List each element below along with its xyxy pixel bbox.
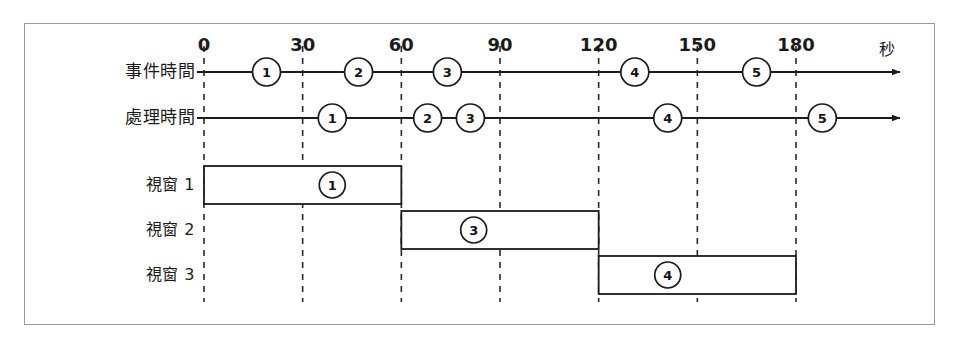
- window-bar-3: [599, 256, 796, 294]
- event-node-label-processing-time-5: 5: [807, 112, 837, 125]
- event-node-label-event-time-4: 4: [620, 66, 650, 79]
- window-event-node-label-1: 1: [317, 179, 347, 192]
- tick-label-180: 180: [766, 36, 826, 54]
- window-bar-2: [401, 211, 598, 249]
- unit-label: 秒: [872, 42, 902, 58]
- event-node-label-event-time-2: 2: [344, 66, 374, 79]
- tick-label-120: 120: [569, 36, 629, 54]
- event-node-label-event-time-5: 5: [742, 66, 772, 79]
- window-label-2: 視窗 2: [30, 222, 195, 238]
- tick-label-150: 150: [667, 36, 727, 54]
- window-bar-1: [204, 166, 401, 204]
- tick-label-60: 60: [371, 36, 431, 54]
- timeline-figure: 0306090120150180事件時間12345處理時間12345視窗 11視…: [0, 0, 961, 350]
- window-event-node-label-3: 4: [653, 269, 683, 282]
- event-node-label-processing-time-4: 4: [653, 112, 683, 125]
- tick-label-90: 90: [470, 36, 530, 54]
- window-event-node-label-2: 3: [459, 224, 489, 237]
- window-label-3: 視窗 3: [30, 267, 195, 283]
- axis-label-processing-time: 處理時間: [30, 109, 195, 126]
- window-label-1: 視窗 1: [30, 177, 195, 193]
- event-node-label-processing-time-3: 3: [455, 112, 485, 125]
- tick-label-30: 30: [273, 36, 333, 54]
- tick-label-0: 0: [174, 36, 234, 54]
- event-node-label-processing-time-1: 1: [317, 112, 347, 125]
- axis-label-event-time: 事件時間: [30, 63, 195, 80]
- event-node-label-event-time-1: 1: [251, 66, 281, 79]
- event-node-label-event-time-3: 3: [432, 66, 462, 79]
- event-node-label-processing-time-2: 2: [413, 112, 443, 125]
